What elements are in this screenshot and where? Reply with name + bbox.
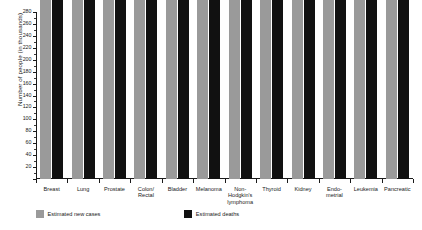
bar-cases: 52,380 (354, 0, 365, 179)
bar-deaths: 18,990 (241, 0, 252, 179)
x-axis-category-label: Pancreatic (379, 186, 416, 192)
y-axis-tick-label: 260 (23, 21, 32, 26)
y-axis-title: Number of people (in thousands) (16, 0, 23, 135)
bar-deaths: 40,560 (398, 0, 409, 179)
bar-cases: 74,000 (166, 0, 177, 179)
bar-cases: 54,870 (323, 0, 334, 179)
legend-item-estimated-new-cases: Estimated new cases (36, 210, 100, 218)
plot-area: 2040608010012014016018020022024026028023… (36, 12, 413, 179)
x-axis-end-tick (413, 179, 414, 183)
y-axis-tick-label: 40 (26, 153, 32, 158)
bar-cases: 76,100 (197, 0, 208, 179)
x-axis-category-separator (193, 179, 194, 183)
bar-group: 54,87010,170 (319, 12, 350, 179)
legend-label-cases: Estimated new cases (48, 211, 101, 217)
x-axis-category-separator (67, 179, 68, 183)
cancer-statistics-bar-chart: Number of people (in thousands) 20406080… (0, 0, 422, 230)
bar-cases: 63,900 (292, 0, 303, 179)
bar-deaths: 10,170 (335, 0, 346, 179)
bar-group: 52,38024,090 (350, 12, 381, 179)
bar-cases: 46,420 (386, 0, 397, 179)
bar-group: 62,4501,950 (256, 12, 287, 179)
bar-deaths: 9,710 (209, 0, 220, 179)
bar-group: 136,00050,310 (130, 12, 161, 179)
x-axis-category-separator (225, 179, 226, 183)
bar-cases: 234,000 (40, 0, 51, 179)
y-axis-tick-label: 140 (23, 93, 32, 98)
y-axis-tick-label: 280 (23, 9, 32, 14)
x-axis-end-tick (36, 179, 37, 183)
bar-group: 224,000159,000 (67, 12, 98, 179)
y-axis-tick-label: 60 (26, 141, 32, 146)
y-axis-tick-label: 80 (26, 129, 32, 134)
bar-group: 220,80027,540 (99, 12, 130, 179)
legend-swatch-icon-cases (36, 210, 44, 218)
bar-deaths: 16,000 (178, 0, 189, 179)
y-axis-tick-label: 100 (23, 117, 32, 122)
y-axis-tick-label: 20 (26, 164, 32, 169)
y-axis-tick-label: 120 (23, 105, 32, 110)
y-axis-tick-label: 160 (23, 81, 32, 86)
x-axis-category-separator (287, 179, 288, 183)
bar-deaths: 27,540 (115, 0, 126, 179)
y-axis-tick-label: 240 (23, 33, 32, 38)
y-axis-tick-label: 180 (23, 69, 32, 74)
legend-label-deaths: Estimated deaths (196, 211, 239, 217)
bar-group: 234,00040,730 (36, 12, 67, 179)
bar-group: 46,42040,560 (382, 12, 413, 179)
bar-cases: 62,450 (260, 0, 271, 179)
bar-deaths: 40,730 (52, 0, 63, 179)
bar-deaths: 159,000 (84, 0, 95, 179)
x-axis-category-separator (256, 179, 257, 183)
bar-deaths: 50,310 (146, 0, 157, 179)
y-axis-tick-label: 200 (23, 57, 32, 62)
bar-group: 74,00016,000 (162, 12, 193, 179)
legend-swatch-icon-deaths (184, 210, 192, 218)
bar-deaths: 1,950 (272, 0, 283, 179)
bar-deaths: 24,090 (366, 0, 377, 179)
bar-group: 63,90013,860 (287, 12, 318, 179)
bar-group: 70,80018,990 (225, 12, 256, 179)
chart-legend: Estimated new cases Estimated deaths (36, 210, 239, 218)
bar-cases: 70,800 (229, 0, 240, 179)
legend-item-estimated-deaths: Estimated deaths (184, 210, 239, 218)
x-axis-category-separator (350, 179, 351, 183)
x-axis-category-separator (382, 179, 383, 183)
x-axis-category-separator (162, 179, 163, 183)
x-axis-category-separator (99, 179, 100, 183)
bar-cases: 224,000 (72, 0, 83, 179)
bar-deaths: 13,860 (304, 0, 315, 179)
bar-cases: 220,800 (103, 0, 114, 179)
bar-cases: 136,000 (134, 0, 145, 179)
bar-group: 76,1009,710 (193, 12, 224, 179)
x-axis-category-separator (130, 179, 131, 183)
y-axis-tick-label: 220 (23, 45, 32, 50)
x-axis-category-separator (319, 179, 320, 183)
